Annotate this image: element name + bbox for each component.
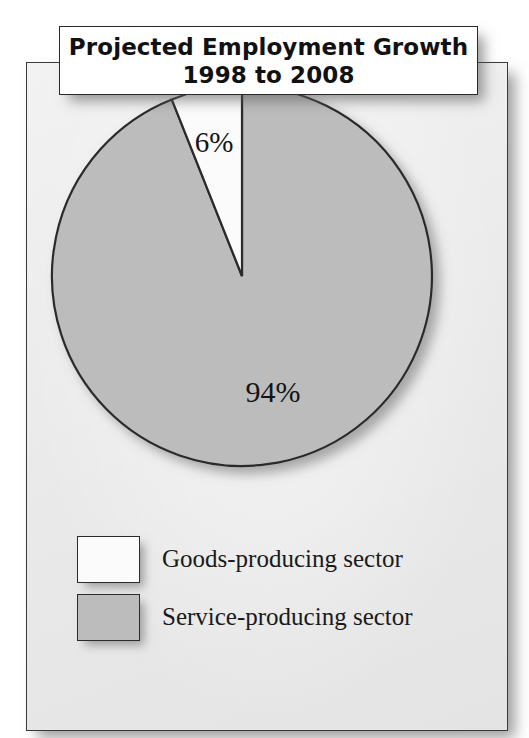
chart-title-line-2: 1998 to 2008 (182, 61, 354, 89)
pie-chart-svg: 6% 94% (28, 62, 456, 490)
legend-label-service-producing: Service-producing sector (162, 603, 413, 631)
legend-label-goods-producing: Goods-producing sector (162, 545, 403, 573)
chart-title-line-1: Projected Employment Growth (69, 33, 468, 61)
legend-swatch-service-producing (77, 594, 140, 641)
legend-swatch-goods-producing (77, 536, 140, 583)
pie-chart: 6% 94% (28, 62, 456, 490)
figure-canvas: Projected Employment Growth 1998 to 2008… (0, 0, 529, 738)
pie-label-goods-producing: 6% (195, 126, 234, 158)
chart-title-plate: Projected Employment Growth 1998 to 2008 (59, 26, 478, 95)
chart-legend: Goods-producing sector Service-producing… (77, 530, 467, 646)
legend-item-service-producing[interactable]: Service-producing sector (77, 588, 467, 646)
pie-label-service-producing: 94% (246, 375, 301, 408)
legend-item-goods-producing[interactable]: Goods-producing sector (77, 530, 467, 588)
pie-slices-group (52, 86, 432, 466)
